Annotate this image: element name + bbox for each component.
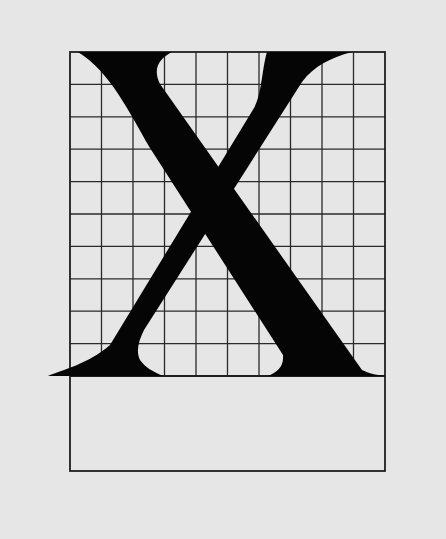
letter-construction-diagram (0, 0, 446, 539)
diagram-canvas (0, 0, 446, 539)
page-background (0, 0, 446, 539)
